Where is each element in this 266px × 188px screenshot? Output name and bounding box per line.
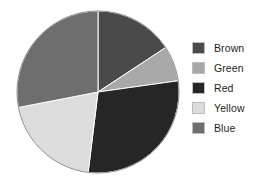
legend-item-green[interactable]: Green bbox=[192, 58, 266, 78]
legend-item-blue[interactable]: Blue bbox=[192, 118, 266, 138]
legend-swatch-blue bbox=[192, 122, 205, 134]
legend-swatch-green bbox=[192, 62, 205, 74]
legend-item-brown[interactable]: Brown bbox=[192, 38, 266, 58]
legend-label-yellow: Yellow bbox=[214, 102, 245, 114]
pie-plot-area bbox=[0, 0, 188, 188]
legend-item-red[interactable]: Red bbox=[192, 78, 266, 98]
pie-chart-figure: BrownGreenRedYellowBlue bbox=[0, 0, 266, 188]
legend-item-yellow[interactable]: Yellow bbox=[192, 98, 266, 118]
pie-slices-group bbox=[17, 11, 179, 173]
pie-slice-red[interactable] bbox=[88, 81, 179, 173]
legend-label-green: Green bbox=[214, 62, 244, 74]
pie-svg bbox=[0, 0, 188, 188]
legend-label-red: Red bbox=[214, 82, 234, 94]
legend-swatch-brown bbox=[192, 42, 205, 54]
chart-legend: BrownGreenRedYellowBlue bbox=[192, 38, 266, 138]
legend-swatch-red bbox=[192, 82, 205, 94]
legend-label-blue: Blue bbox=[214, 122, 235, 134]
pie-slice-blue[interactable] bbox=[17, 11, 98, 107]
legend-swatch-yellow bbox=[192, 102, 205, 114]
legend-label-brown: Brown bbox=[214, 42, 244, 54]
